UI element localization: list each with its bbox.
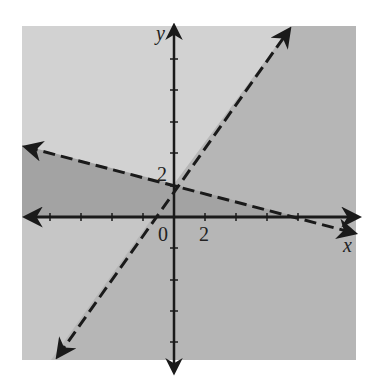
origin-label: 0 [158, 223, 168, 245]
shaded-regions [22, 26, 356, 360]
x-tick-label-2: 2 [199, 223, 209, 245]
inequality-graph: y x 0 2 2 [0, 0, 374, 388]
y-axis-label: y [154, 22, 165, 45]
x-axis-label: x [342, 234, 352, 256]
y-tick-label-2: 2 [157, 163, 167, 185]
